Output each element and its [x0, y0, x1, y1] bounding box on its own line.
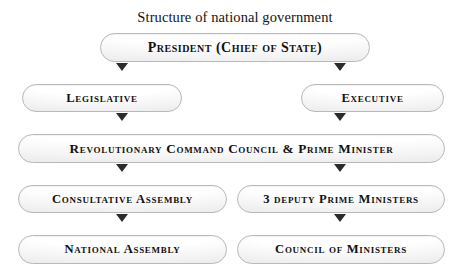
node-president[interactable]: President (Chief of State) [100, 33, 370, 62]
page-title: Structure of national government [0, 9, 470, 26]
node-executive[interactable]: Executive [301, 84, 444, 112]
node-council-of-ministers-label: Council of Ministers [275, 243, 407, 256]
node-legislative[interactable]: Legislative [22, 84, 182, 112]
connector-rcc-to-consultative-assembly [116, 164, 128, 172]
connector-president-to-executive [334, 63, 346, 71]
node-national-assembly[interactable]: National Assembly [18, 235, 227, 264]
connector-executive-to-rcc [334, 113, 346, 121]
node-council-of-ministers[interactable]: Council of Ministers [237, 235, 445, 264]
node-deputy-prime-ministers-label: 3 deputy Prime Ministers [263, 193, 419, 206]
node-executive-label: Executive [341, 92, 403, 105]
connector-deputy-pms-to-council-of-ministers [334, 214, 346, 222]
connector-rcc-to-deputy-prime-ministers [334, 164, 346, 172]
connector-consultative-to-national-assembly [116, 214, 128, 222]
connector-president-to-legislative [116, 63, 128, 71]
node-consultative-assembly[interactable]: Consultative Assembly [18, 185, 227, 213]
node-consultative-assembly-label: Consultative Assembly [52, 193, 193, 206]
org-chart: Structure of national government Preside… [0, 0, 470, 280]
node-revolutionary-command-council[interactable]: Revolutionary Command Council & Prime Mi… [18, 134, 445, 163]
node-deputy-prime-ministers[interactable]: 3 deputy Prime Ministers [237, 185, 445, 213]
node-legislative-label: Legislative [66, 92, 137, 105]
node-president-label: President (Chief of State) [148, 41, 322, 55]
connector-legislative-to-rcc [116, 113, 128, 121]
node-revolutionary-command-council-label: Revolutionary Command Council & Prime Mi… [70, 142, 394, 155]
node-national-assembly-label: National Assembly [64, 243, 180, 256]
